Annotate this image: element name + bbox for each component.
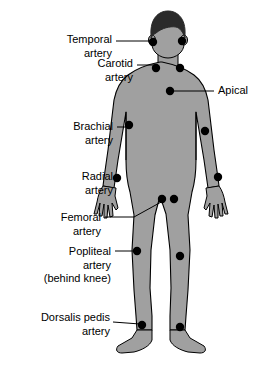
label-radial-artery: Radialartery — [45, 170, 113, 197]
label-brachial-artery: Brachialartery — [37, 120, 113, 147]
label-dorsalis-pedis-artery: Dorsalis pedisartery — [14, 311, 110, 338]
pulse-point-dorsalis-pedis-left[interactable] — [138, 321, 146, 329]
right-hand-shape — [204, 186, 228, 218]
pulse-point-temporal-right[interactable] — [178, 37, 186, 45]
label-femoral-artery-line-2: artery — [23, 225, 101, 239]
label-apical: Apical — [218, 84, 264, 98]
label-radial-artery-line-2: artery — [45, 184, 113, 198]
pulse-point-femoral-right[interactable] — [170, 195, 178, 203]
label-dorsalis-pedis-artery-line-2: artery — [14, 325, 110, 339]
label-apical-line-1: Apical — [218, 84, 264, 98]
label-dorsalis-pedis-artery-line-1: Dorsalis pedis — [14, 311, 110, 325]
label-carotid-artery-line-1: Carotid — [55, 57, 133, 71]
label-temporal-artery: Temporalartery — [22, 33, 112, 60]
label-popliteal-artery-line-3: (behind knee) — [23, 272, 111, 286]
label-popliteal-artery-line-2: artery — [23, 259, 111, 273]
pulse-point-carotid-left[interactable] — [152, 64, 160, 72]
pulse-point-radial-right[interactable] — [214, 173, 222, 181]
label-carotid-artery-line-2: artery — [55, 71, 133, 85]
left-foot-shape — [117, 330, 152, 353]
pulse-point-radial-left[interactable] — [113, 174, 121, 182]
pulse-point-temporal-left[interactable] — [149, 38, 157, 46]
right-foot-shape — [170, 330, 205, 353]
pulse-point-popliteal-right[interactable] — [176, 252, 184, 260]
pulse-point-popliteal-left[interactable] — [133, 247, 141, 255]
label-femoral-artery-line-1: Femoral — [23, 211, 101, 225]
pulse-point-apical[interactable] — [166, 87, 174, 95]
label-brachial-artery-line-2: artery — [37, 134, 113, 148]
label-carotid-artery: Carotidartery — [55, 57, 133, 84]
pulse-point-brachial-right[interactable] — [201, 127, 209, 135]
label-popliteal-artery: Poplitealartery(behind knee) — [23, 245, 111, 286]
label-popliteal-artery-line-1: Popliteal — [23, 245, 111, 259]
label-temporal-artery-line-1: Temporal — [22, 33, 112, 47]
label-brachial-artery-line-1: Brachial — [37, 120, 113, 134]
pulse-point-brachial-left[interactable] — [125, 121, 133, 129]
label-femoral-artery: Femoralartery — [23, 211, 101, 238]
pulse-points-diagram: TemporalarteryCarotidarteryApicalBrachia… — [0, 0, 266, 366]
label-radial-artery-line-1: Radial — [45, 170, 113, 184]
pulse-point-femoral-left[interactable] — [158, 195, 166, 203]
pulse-point-dorsalis-pedis-right[interactable] — [176, 323, 184, 331]
pulse-point-carotid-right[interactable] — [176, 64, 184, 72]
